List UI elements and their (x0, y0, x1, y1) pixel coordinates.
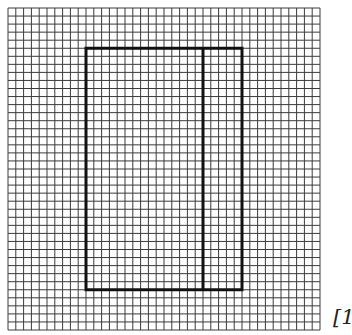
grid-lines (8, 8, 320, 330)
figure-label: [1 (333, 307, 352, 328)
grid-diagram (0, 0, 352, 335)
